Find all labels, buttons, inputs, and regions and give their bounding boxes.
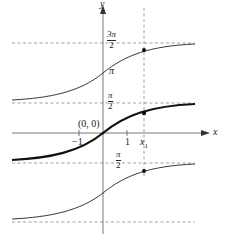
tick-label-neg-one: −1 xyxy=(72,137,83,147)
label-3pi-over-2: 3π 2 xyxy=(107,30,116,50)
lower-branch-curve xyxy=(12,164,195,219)
x-axis-label: x xyxy=(213,127,217,137)
tick-label-one: 1 xyxy=(125,137,130,147)
tick-label-x1: x1 xyxy=(140,137,148,150)
label-neg-pi-over-2: π 2 xyxy=(116,150,121,170)
label-pi-over-2: π 2 xyxy=(108,91,113,111)
x-axis-arrow-icon xyxy=(201,130,210,136)
label-pi: π xyxy=(109,66,114,76)
origin-label: (0, 0) xyxy=(78,119,100,129)
arctan-branches-diagram: y x (0, 0) −1 1 x1 3π 2 π π 2 π 2 xyxy=(0,0,228,243)
origin-point xyxy=(102,132,104,134)
asymptote-lines xyxy=(12,8,195,222)
y-axis-label: y xyxy=(100,0,104,9)
upper-branch-curve xyxy=(12,44,195,100)
upper-x1-point xyxy=(142,48,146,52)
lower-x1-point xyxy=(142,169,146,173)
principal-x1-point xyxy=(142,111,146,115)
